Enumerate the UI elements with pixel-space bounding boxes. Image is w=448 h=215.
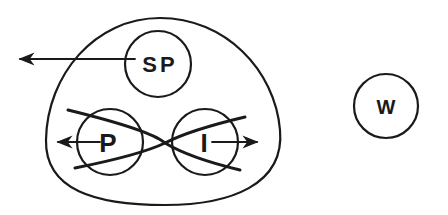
outer-boundary (46, 18, 280, 205)
sp-label: SP (142, 52, 177, 77)
node-sp: SP (125, 31, 191, 97)
cross-line-1 (68, 110, 240, 170)
w-label: W (377, 96, 396, 118)
node-w: W (354, 74, 418, 138)
psychic-structure-diagram: SP P I W (0, 0, 448, 215)
p-label: P (99, 128, 116, 158)
i-label: I (200, 128, 207, 158)
